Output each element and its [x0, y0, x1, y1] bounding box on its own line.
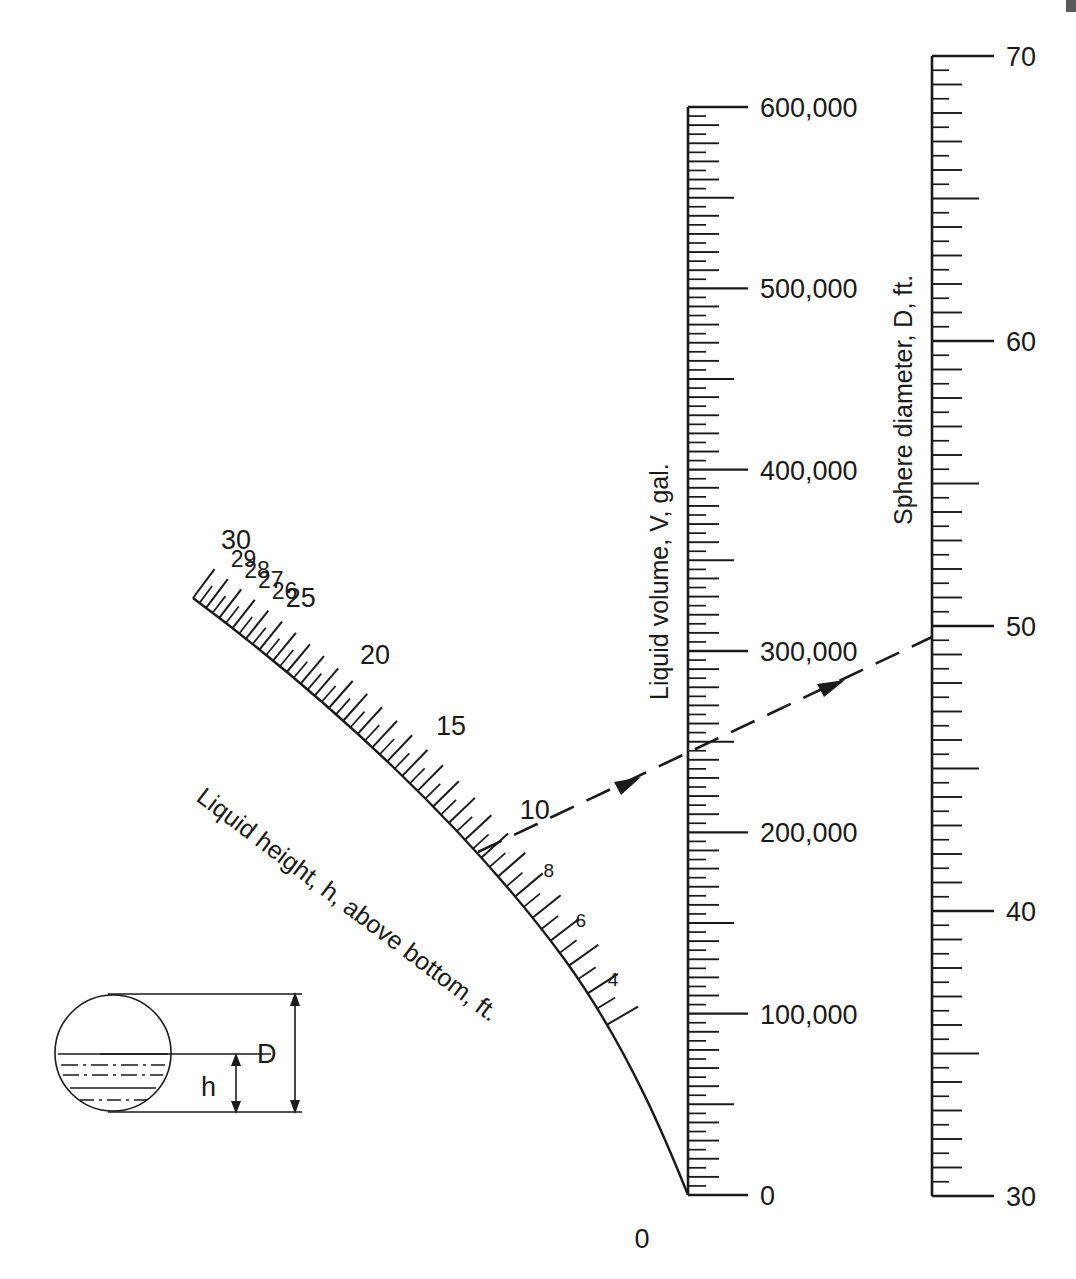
height-scale[interactable]: 3029282726252015108640 Liquid height, h,… [192, 525, 688, 1254]
height-tick-minor [395, 753, 410, 768]
height-scale-labels: 3029282726252015108640 [221, 525, 649, 1254]
height-tick-minor [524, 894, 540, 907]
height-tick-minor [578, 967, 595, 979]
index-line-arrowhead-1 [614, 777, 641, 795]
height-tick-minor [542, 916, 559, 929]
nomograph-canvas: D h 3029282726252015108640 Liquid height… [0, 0, 1076, 1279]
height-scale-label: 10 [520, 795, 550, 825]
height-tick-major [372, 721, 397, 747]
height-tick-minor [294, 662, 308, 678]
height-tick-major [387, 735, 412, 761]
height-tick-minor [473, 834, 488, 848]
diameter-scale-label: 50 [1006, 612, 1036, 642]
height-tick-minor [200, 586, 213, 603]
volume-scale-label: 600,000 [760, 93, 858, 123]
height-tick-minor [336, 699, 350, 715]
height-tick-major [206, 579, 228, 608]
height-tick-minor [266, 639, 279, 655]
height-tick-minor [490, 853, 506, 867]
height-scale-title: Liquid height, h, above bottom, ft. [192, 782, 504, 1027]
height-tick-major [433, 781, 459, 806]
height-tick-minor [597, 998, 615, 1009]
height-tick-minor [425, 784, 440, 799]
nomograph-figure: D h 3029282726252015108640 Liquid height… [0, 0, 1076, 1279]
volume-scale-label: 100,000 [760, 1000, 858, 1030]
height-tick-major [219, 589, 241, 618]
diameter-scale-title: Sphere diameter, D, ft. [889, 275, 917, 525]
volume-scale-label: 500,000 [760, 274, 858, 304]
page-corner-mark [1066, 0, 1076, 12]
height-tick-major [515, 873, 543, 896]
height-tick-major [315, 668, 339, 695]
diameter-scale-label: 70 [1006, 42, 1036, 72]
volume-scale-label: 300,000 [760, 637, 858, 667]
height-tick-minor [507, 873, 523, 887]
height-scale-label: 15 [436, 711, 466, 741]
height-tick-major [358, 707, 382, 734]
height-tick-minor [253, 628, 266, 644]
height-tick-minor [457, 817, 472, 831]
height-tick-major [193, 569, 215, 598]
height-scale-label: 4 [608, 969, 619, 990]
volume-scale-title: Liquid volume, V, gal. [645, 463, 673, 700]
volume-scale-ticks [688, 107, 748, 1195]
volume-scale[interactable]: 600,000500,000400,000300,000200,000100,0… [645, 93, 858, 1211]
height-tick-minor [350, 712, 364, 728]
height-tick-major [402, 750, 427, 776]
height-tick-major [607, 1007, 638, 1025]
diameter-scale[interactable]: 7060504030 Sphere diameter, D, ft. [889, 42, 1036, 1212]
height-tick-minor [322, 686, 336, 702]
height-tick-minor [213, 596, 226, 613]
index-line-arrowhead-2 [817, 680, 845, 697]
height-tick-major [329, 681, 353, 708]
height-scale-label: 20 [360, 640, 390, 670]
diameter-scale-labels: 7060504030 [1006, 42, 1036, 1212]
height-tick-major [301, 656, 324, 683]
volume-scale-label: 0 [760, 1181, 775, 1211]
diameter-scale-label: 40 [1006, 897, 1036, 927]
height-tick-minor [365, 725, 379, 740]
height-tick-major [343, 694, 367, 721]
height-tick-minor [226, 606, 239, 623]
diameter-scale-label: 60 [1006, 327, 1036, 357]
height-tick-major [418, 765, 443, 791]
dimension-label-h: h [201, 1072, 216, 1102]
height-tick-major [233, 600, 255, 628]
height-scale-label: 8 [544, 860, 555, 881]
sphere-circle [55, 995, 171, 1111]
height-tick-major [569, 945, 598, 966]
height-tick-minor [410, 768, 425, 783]
height-tick-major [533, 895, 561, 918]
inset-sphere-diagram: D h [55, 992, 302, 1114]
height-tick-major [246, 611, 268, 639]
volume-scale-label: 200,000 [760, 818, 858, 848]
height-tick-minor [280, 650, 293, 666]
height-scale-label: 0 [634, 1224, 649, 1254]
volume-scale-labels: 600,000500,000400,000300,000200,000100,0… [760, 93, 858, 1211]
arrowhead-h-up [231, 1053, 241, 1066]
height-tick-minor [308, 674, 322, 690]
height-tick-minor [441, 800, 456, 815]
height-tick-minor [239, 617, 252, 633]
height-tick-major [287, 644, 310, 672]
height-scale-curve [193, 598, 688, 1195]
volume-scale-label: 400,000 [760, 456, 858, 486]
dimension-label-D: D [257, 1039, 277, 1069]
height-tick-major [273, 633, 296, 661]
height-tick-minor [380, 739, 394, 754]
height-scale-label: 25 [286, 583, 316, 613]
height-tick-major [259, 622, 282, 650]
diameter-scale-ticks [932, 56, 994, 1196]
height-scale-label: 6 [575, 910, 586, 931]
height-tick-minor [560, 940, 577, 953]
diameter-scale-label: 30 [1006, 1182, 1036, 1212]
